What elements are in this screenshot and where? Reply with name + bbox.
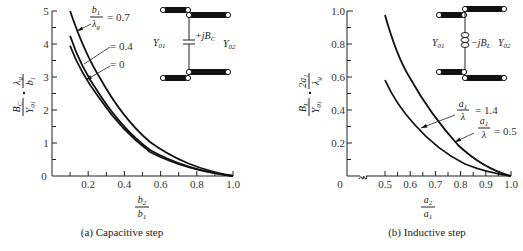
svg-text:λg: λg — [91, 18, 100, 31]
panel-b-xtick-label: 0.8 — [454, 178, 468, 190]
panel-b-xtick-label: 1.0 — [504, 178, 518, 190]
svg-text:2a1: 2a1 — [297, 74, 310, 88]
svg-text:Y01: Y01 — [153, 37, 166, 50]
svg-text:λ: λ — [460, 111, 466, 122]
panel-b-inductor-inset-diagram: Y01 −jBL Y02 — [432, 6, 511, 81]
panel-b-axis-break-icon — [359, 172, 367, 180]
panel-a-xtick-label: 0.4 — [118, 178, 132, 190]
panel-b-ytick-label: 0.4 — [331, 104, 345, 116]
panel-a-y-ticks — [52, 28, 57, 160]
panel-a-x-axis-label: b2 b1 — [135, 194, 149, 221]
panel-b-ytick-label: 0.8 — [331, 38, 345, 50]
panel-a-ytick-label: 1 — [43, 137, 49, 149]
inductor-coil-icon — [461, 33, 469, 48]
panel-a-xtick-label: 1.0 — [226, 178, 240, 190]
panel-a-origin-label: 0 — [41, 170, 47, 182]
panel-b-xtick-label: 0.5 — [378, 178, 392, 190]
svg-text:Y01: Y01 — [432, 37, 445, 50]
svg-text:−jBL: −jBL — [471, 37, 491, 50]
svg-text:= 0.4: = 0.4 — [110, 40, 133, 52]
panel-b-curve-0.5 — [385, 15, 511, 176]
svg-text:+jBC: +jBC — [195, 30, 216, 43]
panel-b-curve-1.4 — [385, 80, 511, 176]
panel-b-inductive-step: 0 0.2 0.4 0.6 0.8 1.0 0.5 0.6 0.7 0.8 0.… — [297, 5, 518, 239]
svg-text:λg: λg — [310, 77, 323, 86]
panel-a-ytick-label: 3 — [43, 71, 49, 83]
panel-a-capacitive-step: 0 1 2 3 4 5 0.2 0.4 0.6 0.8 1.0 b1 λg = … — [11, 4, 240, 239]
panel-a-y-axis-label: BC Y01 λg b1 — [11, 74, 37, 116]
svg-text:= 0: = 0 — [110, 58, 125, 70]
panel-b-ytick-label: 1.0 — [331, 5, 345, 17]
svg-text:= 1.4: = 1.4 — [475, 104, 498, 116]
svg-text:Y01: Y01 — [310, 101, 323, 114]
panel-b-x-axis-label: a2 a1 — [421, 194, 435, 221]
panel-a-capacitor-inset-diagram: Y01 +jBC Y02 — [153, 7, 236, 81]
svg-text:b1: b1 — [92, 4, 101, 17]
svg-text:λ: λ — [481, 129, 487, 140]
panel-b-xtick-label: 0.7 — [429, 178, 443, 190]
figure: 0 1 2 3 4 5 0.2 0.4 0.6 0.8 1.0 b1 λg = … — [0, 0, 523, 251]
panel-a-caption: (a) Capacitive step — [81, 226, 164, 239]
svg-text:a2: a2 — [424, 194, 433, 207]
panel-b-caption: (b) Inductive step — [388, 226, 466, 239]
panel-a-legend-0.4: = 0.4 — [84, 40, 133, 64]
svg-text:a1: a1 — [459, 98, 468, 111]
svg-text:a1: a1 — [480, 115, 489, 128]
panel-b-x-ticks — [385, 171, 498, 176]
svg-text:Y02: Y02 — [223, 38, 236, 51]
svg-text:b2: b2 — [138, 194, 147, 207]
panel-a-legend-0.7: b1 λg = 0.7 — [77, 4, 130, 31]
svg-text:BC: BC — [11, 101, 24, 112]
panel-a-curve-0 — [70, 46, 233, 176]
panel-a-xtick-label: 0.8 — [190, 178, 204, 190]
panel-a-xtick-label: 0.2 — [81, 178, 95, 190]
panel-b-axes — [347, 11, 511, 176]
panel-a-xtick-label: 0.6 — [154, 178, 168, 190]
svg-text:b1: b1 — [138, 208, 147, 221]
panel-b-ytick-label: 0.6 — [331, 71, 345, 83]
panel-b-xtick-label: 0.6 — [403, 178, 417, 190]
svg-text:b1: b1 — [24, 77, 37, 86]
svg-text:= 0.7: = 0.7 — [107, 11, 130, 23]
panel-b-xtick-label: 0.9 — [479, 178, 493, 190]
svg-text:λg: λg — [11, 77, 24, 86]
panel-b-origin-label: 0 — [337, 178, 343, 190]
panel-b-ytick-label: 0.2 — [331, 137, 345, 149]
panel-a-ytick-label: 2 — [43, 104, 49, 116]
panel-a-x-ticks — [70, 171, 215, 176]
panel-a-legend-0: = 0 — [86, 58, 125, 80]
panel-b-y-ticks — [347, 28, 352, 160]
panel-b-y-axis-label: BL Y01 2a1 λg — [297, 73, 323, 116]
svg-text:= 0.5: = 0.5 — [494, 125, 517, 137]
svg-text:a1: a1 — [424, 208, 433, 221]
panel-a-ytick-label: 4 — [43, 38, 49, 50]
panel-a-ytick-label: 5 — [43, 5, 49, 17]
svg-text:Y02: Y02 — [498, 37, 511, 50]
svg-text:Y01: Y01 — [24, 101, 37, 114]
svg-text:BL: BL — [297, 102, 310, 112]
